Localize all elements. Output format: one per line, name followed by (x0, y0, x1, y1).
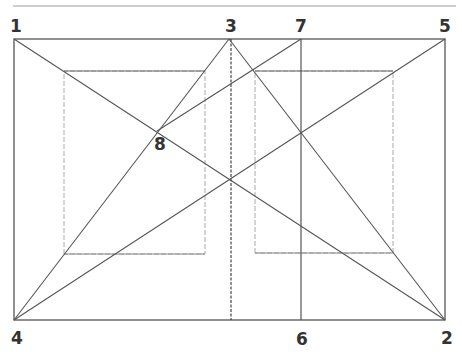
point-label-5: 5 (439, 18, 451, 35)
point-label-6: 6 (296, 331, 308, 348)
point-label-7: 7 (295, 18, 307, 35)
point-label-3: 3 (225, 18, 237, 35)
diagram-canvas (0, 0, 462, 362)
line-4-3 (14, 39, 229, 320)
point-label-4: 4 (11, 330, 23, 347)
line-7-8 (157, 39, 301, 131)
point-label-8: 8 (154, 136, 166, 153)
line-3-2 (229, 39, 445, 320)
point-label-2: 2 (441, 330, 453, 347)
point-label-1: 1 (10, 18, 22, 35)
